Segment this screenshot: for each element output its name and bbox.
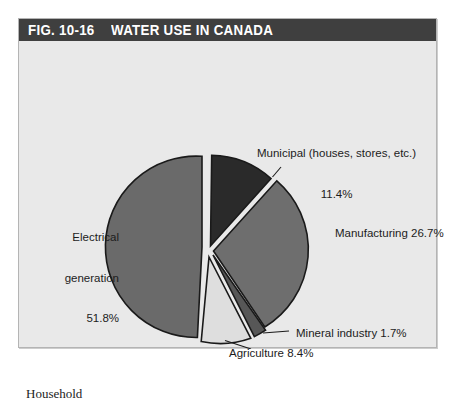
- label-electrical-line2: generation: [33, 272, 119, 286]
- label-municipal-line1: Municipal (houses, stores, etc.): [257, 147, 416, 161]
- label-municipal-value: 11.4%: [257, 188, 416, 202]
- label-mineral-industry: Mineral industry 1.7%: [296, 327, 407, 341]
- caption-partial-text: Household: [26, 386, 82, 399]
- pie-chart-area: Municipal (houses, stores, etc.) 11.4% M…: [19, 41, 436, 347]
- label-electrical-value: 51.8%: [33, 312, 119, 326]
- leader-line-mineral: [263, 331, 289, 333]
- label-electrical-line1: Electrical: [33, 231, 119, 245]
- figure-title: WATER USE IN CANADA: [111, 22, 273, 38]
- figure-number: FIG. 10-16: [28, 22, 95, 38]
- pie-slice-electrical-generation[interactable]: [105, 156, 202, 337]
- figure-title-bar: FIG. 10-16 WATER USE IN CANADA: [19, 19, 436, 41]
- label-agriculture: Agriculture 8.4%: [229, 347, 313, 361]
- figure-panel: FIG. 10-16 WATER USE IN CANADA Municipal…: [18, 18, 437, 348]
- label-manufacturing: Manufacturing 26.7%: [335, 227, 444, 241]
- label-municipal: Municipal (houses, stores, etc.) 11.4%: [257, 120, 416, 228]
- label-electrical-generation: Electrical generation 51.8%: [33, 204, 119, 353]
